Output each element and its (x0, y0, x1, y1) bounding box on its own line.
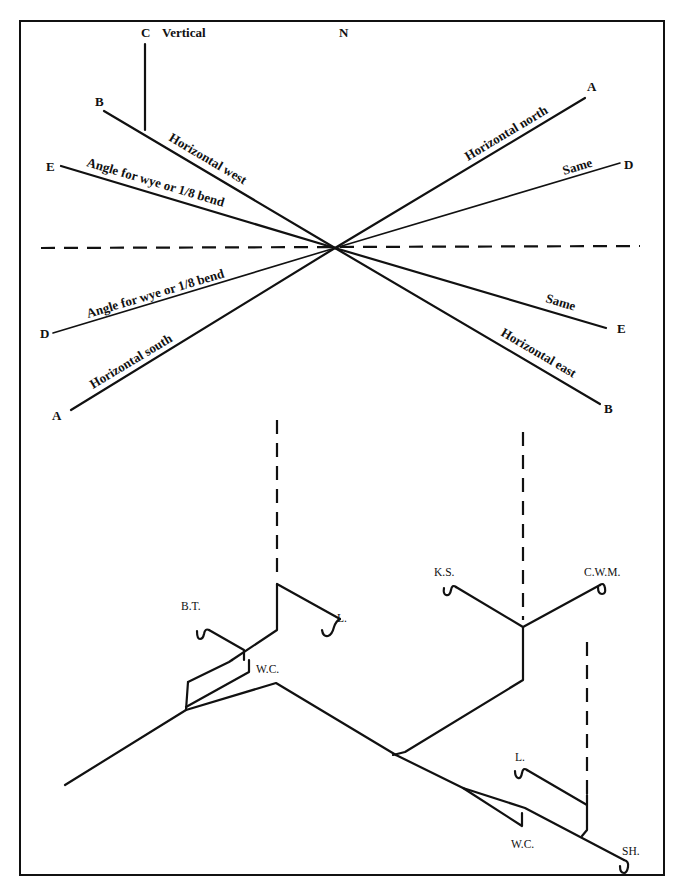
vertical-label: Vertical (162, 25, 206, 40)
fixture-label-cwm: C.W.M. (584, 566, 620, 578)
horizontal-south-label: Horizontal south (87, 330, 176, 391)
horizontal-east-line (335, 248, 600, 404)
compass-diagram: N C Vertical B Horizontal west E Angle f… (40, 25, 640, 423)
fixture-label-l-upper: L. (337, 612, 347, 624)
bath-tub-trap-icon (197, 630, 209, 640)
horizontal-east-label: Horizontal east (498, 325, 579, 381)
isometric-drawing: B.T. L. W.C. K.S. C.W.M. L. W.C. SH. (65, 420, 640, 873)
point-a-south: A (52, 408, 62, 423)
lavatory-upper-branch (277, 584, 340, 619)
horizontal-north-label: Horizontal north (462, 102, 551, 164)
point-c: C (141, 25, 150, 40)
point-d-south: D (40, 326, 49, 341)
water-closet-right-branch (463, 788, 522, 826)
left-stack-pipe (232, 584, 277, 660)
plumbing-diagram: N C Vertical B Horizontal west E Angle f… (0, 0, 676, 887)
point-b-west: B (95, 94, 104, 109)
left-branch-upper (188, 660, 232, 682)
main-drain-right (396, 755, 624, 860)
angle-south-line (53, 248, 335, 333)
same-north-label: Same (561, 155, 595, 178)
lower-vent-solid (582, 795, 587, 836)
main-drain-mid (186, 683, 396, 755)
point-e-west: E (46, 159, 55, 174)
fixture-label-ks: K.S. (434, 566, 455, 578)
point-b-east: B (604, 401, 613, 416)
fixture-label-l-lower: L. (515, 751, 525, 763)
horizontal-west-label: Horizontal west (166, 130, 250, 188)
fixture-label-wc-left: W.C. (256, 663, 279, 675)
fixture-label-bt: B.T. (181, 600, 201, 612)
angle-west-line (61, 166, 335, 248)
kitchen-washer-branch (456, 585, 600, 627)
kitchen-sink-trap-icon (444, 586, 456, 595)
building-drain-left (65, 710, 186, 785)
fixture-label-sh: SH. (622, 845, 640, 857)
point-e-east: E (617, 321, 626, 336)
fixture-label-wc-right: W.C. (511, 838, 534, 850)
lavatory-lower-branch (527, 770, 587, 805)
lavatory-lower-trap-icon (515, 769, 527, 778)
angle-south-label: Angle for wye or 1/8 bend (85, 265, 227, 320)
point-a-north: A (587, 79, 597, 94)
washer-trap-icon (598, 584, 605, 594)
shower-trap-icon (620, 860, 628, 873)
right-stack-pipe (393, 627, 523, 755)
north-label: N (339, 25, 349, 40)
horizontal-north-line (335, 98, 585, 248)
point-d-north: D (624, 157, 633, 172)
same-north-line (335, 163, 620, 248)
same-east-line (335, 248, 606, 328)
